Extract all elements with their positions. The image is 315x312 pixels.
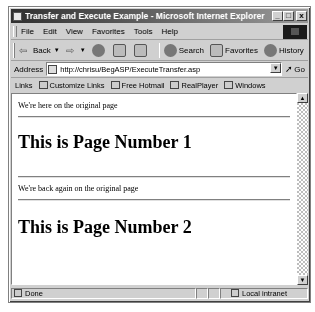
chevron-down-icon[interactable]: ▼	[80, 47, 86, 53]
toolbar-separator	[314, 43, 315, 58]
favorites-icon	[210, 44, 223, 57]
page-done-icon	[14, 289, 22, 297]
menu-tools[interactable]: Tools	[134, 27, 153, 36]
go-arrow-icon: ➚	[285, 64, 293, 74]
menu-help[interactable]: Help	[161, 27, 177, 36]
page-heading-2: This is Page Number 2	[18, 217, 290, 238]
links-label: Links	[15, 81, 33, 90]
horizontal-rule	[18, 176, 290, 178]
search-icon	[164, 44, 177, 57]
link-page-icon	[111, 81, 120, 89]
back-on-original-text: We're back again on the original page	[18, 184, 290, 193]
address-bar: Address http://chrisu/BegASP/ExecuteTran…	[11, 61, 308, 78]
title-bar[interactable]: Transfer and Execute Example - Microsoft…	[11, 9, 308, 23]
menu-bar: File Edit View Favorites Tools Help	[11, 24, 308, 40]
vertical-scrollbar[interactable]: ▲ ▼	[297, 93, 308, 285]
original-page-text: We're here on the original page	[18, 101, 290, 110]
stop-button[interactable]	[92, 44, 107, 57]
toolbar-grip[interactable]	[13, 26, 17, 37]
link-free-hotmail[interactable]: Free Hotmail	[111, 81, 165, 90]
horizontal-rule	[18, 199, 290, 201]
page-heading-1: This is Page Number 1	[18, 132, 290, 153]
link-realplayer[interactable]: RealPlayer	[170, 81, 218, 90]
browser-window: Transfer and Execute Example - Microsoft…	[8, 6, 311, 303]
windows-logo-throbber	[283, 25, 307, 39]
menu-edit[interactable]: Edit	[43, 27, 57, 36]
close-button[interactable]: x	[296, 11, 307, 21]
link-page-icon	[39, 81, 48, 89]
stop-icon	[92, 44, 105, 57]
home-icon	[134, 44, 147, 57]
menu-favorites[interactable]: Favorites	[92, 27, 125, 36]
refresh-icon	[113, 44, 126, 57]
page-icon	[48, 65, 57, 74]
back-arrow-icon: ⇦	[19, 46, 31, 55]
address-dropdown-button[interactable]: ▼	[270, 63, 281, 73]
minimize-button[interactable]: _	[272, 11, 283, 21]
link-page-icon	[224, 81, 233, 89]
scroll-up-button[interactable]: ▲	[297, 93, 308, 103]
status-panel-empty	[208, 288, 220, 299]
chevron-down-icon[interactable]: ▼	[54, 47, 60, 53]
menu-view[interactable]: View	[66, 27, 83, 36]
forward-arrow-icon: ⇨	[66, 46, 78, 55]
menu-file[interactable]: File	[21, 27, 34, 36]
favorites-button[interactable]: Favorites	[210, 44, 258, 57]
toolbar-grip[interactable]	[13, 43, 15, 58]
security-zone-panel: Local intranet	[220, 288, 308, 299]
history-button[interactable]: History	[264, 44, 304, 57]
status-panel-empty	[196, 288, 208, 299]
standard-toolbar: ⇦ Back ▼ ⇨ ▼ Search Favorites History ▼	[11, 40, 308, 61]
address-label: Address	[14, 65, 43, 74]
toolbar-separator	[159, 43, 160, 58]
back-button[interactable]: ⇦ Back ▼	[19, 46, 60, 55]
home-button[interactable]	[134, 44, 149, 57]
refresh-button[interactable]	[113, 44, 128, 57]
history-icon	[264, 44, 277, 57]
scroll-down-button[interactable]: ▼	[297, 275, 308, 285]
horizontal-rule	[18, 116, 290, 118]
link-page-icon	[170, 81, 179, 89]
search-button[interactable]: Search	[164, 44, 204, 57]
ie-app-icon	[13, 12, 22, 21]
status-panel: Done	[11, 288, 196, 299]
links-bar: Links Customize Links Free Hotmail RealP…	[11, 78, 308, 92]
intranet-zone-icon	[231, 289, 239, 297]
link-customize-links[interactable]: Customize Links	[39, 81, 105, 90]
forward-button[interactable]: ⇨ ▼	[66, 46, 86, 55]
maximize-button[interactable]: □	[283, 11, 294, 21]
go-button[interactable]: ➚ Go	[285, 64, 305, 74]
status-bar: Done Local intranet	[11, 286, 308, 300]
address-input[interactable]: http://chrisu/BegASP/ExecuteTransfer.asp…	[46, 62, 282, 76]
window-title: Transfer and Execute Example - Microsoft…	[25, 11, 272, 21]
address-url: http://chrisu/BegASP/ExecuteTransfer.asp	[60, 65, 200, 74]
page-content: We're here on the original page This is …	[11, 93, 297, 285]
link-windows[interactable]: Windows	[224, 81, 265, 90]
